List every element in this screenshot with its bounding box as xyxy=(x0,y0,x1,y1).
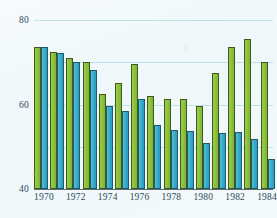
x-axis-tick-label: 1982 xyxy=(225,192,245,202)
bar-group xyxy=(228,20,242,189)
bar-green xyxy=(50,52,57,189)
bar-group xyxy=(147,20,161,189)
x-axis-line: 0 xyxy=(34,189,273,190)
bar-group xyxy=(34,20,48,189)
y-axis-tick-label: 60 xyxy=(19,100,29,110)
bar-green xyxy=(131,64,138,189)
bar-blue xyxy=(203,143,210,189)
bar-blue xyxy=(90,70,97,189)
bar-group xyxy=(115,20,129,189)
bar-green xyxy=(196,106,203,189)
bar-group xyxy=(50,20,64,189)
bar-group xyxy=(131,20,145,189)
bar-group xyxy=(244,20,258,189)
x-axis-tick-label: 1984 xyxy=(257,192,277,202)
bar-blue xyxy=(138,99,145,189)
bar-green xyxy=(83,62,90,189)
bar-group xyxy=(83,20,97,189)
x-axis-tick-labels: 19701972197419761978198019821984 xyxy=(34,192,273,210)
bar-blue xyxy=(219,133,226,189)
y-axis-tick-label: 80 xyxy=(19,15,29,25)
x-axis-tick-label: 1976 xyxy=(130,192,150,202)
bar-green xyxy=(164,99,171,189)
x-axis-tick-label: 1972 xyxy=(66,192,86,202)
bar-blue xyxy=(41,47,48,189)
x-axis-tick-label: 1978 xyxy=(162,192,182,202)
bar-group xyxy=(164,20,178,189)
bar-group xyxy=(180,20,194,189)
x-axis-tick-label: 1980 xyxy=(193,192,213,202)
bar-green xyxy=(228,47,235,189)
bar-series-container xyxy=(34,20,273,189)
bar-blue xyxy=(268,159,275,189)
bar-green xyxy=(180,99,187,189)
bar-blue xyxy=(73,62,80,189)
plot-area: 020406080 xyxy=(34,20,273,189)
bar-blue xyxy=(57,53,64,189)
bar-green xyxy=(99,94,106,189)
bar-group xyxy=(196,20,210,189)
bar-chart: 020406080 197019721974197619781980198219… xyxy=(0,0,277,218)
bar-group xyxy=(99,20,113,189)
y-axis-tick-label: 40 xyxy=(19,184,29,194)
bar-green xyxy=(147,96,154,189)
bar-green xyxy=(34,47,41,189)
bar-green xyxy=(212,73,219,189)
bar-blue xyxy=(251,139,258,189)
bar-blue xyxy=(106,106,113,189)
bar-green xyxy=(261,62,268,189)
bar-blue xyxy=(235,132,242,189)
bar-blue xyxy=(187,131,194,189)
x-axis-tick-label: 1970 xyxy=(34,192,54,202)
bar-group xyxy=(261,20,275,189)
bar-blue xyxy=(171,130,178,189)
bar-green xyxy=(244,39,251,189)
bar-blue xyxy=(154,125,161,189)
bar-green xyxy=(66,58,73,189)
bar-green xyxy=(115,83,122,189)
bar-blue xyxy=(122,111,129,189)
bar-group xyxy=(212,20,226,189)
x-axis-tick-label: 1974 xyxy=(98,192,118,202)
bar-group xyxy=(66,20,80,189)
